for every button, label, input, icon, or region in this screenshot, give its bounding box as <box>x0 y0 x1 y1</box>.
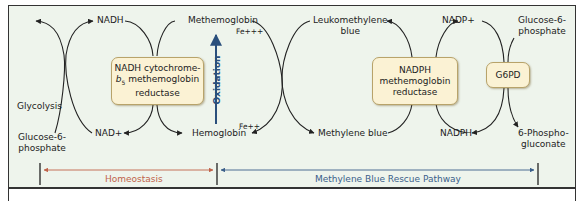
glucose-6-phosphate-left-label: Glucose-6- phosphate <box>18 132 66 154</box>
g6pd-to-nadph <box>472 88 504 133</box>
leuko-to-mb-curve <box>282 21 314 133</box>
enzyme-line1: NADPH <box>399 65 431 76</box>
nadh-into-enzyme <box>125 21 153 56</box>
nadph-label: NADPH <box>440 128 472 139</box>
nadp-plus-label: NADP+ <box>442 15 475 26</box>
pathway-curves <box>0 0 583 201</box>
glycolysis-label: Glycolysis <box>17 101 62 112</box>
enzyme-to-nadp <box>436 21 458 57</box>
methb-into-enzyme <box>157 21 175 56</box>
cytochrome-b5-reductase-box: NADH cytochrome- b5 methemoglobin reduct… <box>111 57 204 105</box>
enzyme-line2-rest: methemoglobin <box>125 74 199 84</box>
enzyme-line2: methemoglobin <box>380 76 451 87</box>
enzyme-line3: reductase <box>135 88 180 99</box>
enzyme-line2: b5 methemoglobin <box>116 74 199 88</box>
nad-plus-label: NAD+ <box>95 128 122 139</box>
nadph-reductase-box: NADPH methemoglobin reductase <box>372 57 458 105</box>
enzyme-to-hb <box>157 105 182 133</box>
nadp-into-g6pd <box>482 21 504 62</box>
enzyme-to-nad <box>124 105 153 133</box>
g6pd-label: G6PD <box>495 70 520 81</box>
leukomethylene-blue-label: Leukomethylene blue <box>313 15 388 37</box>
enzyme-line3: reductase <box>393 87 438 98</box>
enzyme-line1: NADH cytochrome- <box>115 63 201 74</box>
oxidation-label: Oxidation <box>212 55 222 105</box>
g6p-into-g6pd <box>508 38 514 62</box>
methylene-blue-label: Methylene blue <box>318 128 387 139</box>
g6pd-to-6pg <box>508 88 518 127</box>
methemoglobin-label: Methemoglobin <box>188 15 258 26</box>
6-phosphogluconate-label: 6-Phospho- gluconate <box>518 128 569 150</box>
nadh-label: NADH <box>97 15 124 26</box>
fe3-label: Fe+++ <box>236 27 263 36</box>
homeostasis-label: Homeostasis <box>105 174 163 185</box>
g6pd-box: G6PD <box>486 62 530 88</box>
enzyme-to-leuko <box>387 21 412 57</box>
nad-to-nadh-curve <box>66 21 93 133</box>
methb-to-hb-curve <box>252 21 282 133</box>
glycolysis-curve <box>36 21 65 133</box>
mb-into-enzyme <box>388 104 412 133</box>
glucose-6-phosphate-right-label: Glucose-6- phosphate <box>518 15 566 37</box>
hemoglobin-label: Hemoglobin <box>192 128 246 139</box>
rescue-pathway-label: Methylene Blue Rescue Pathway <box>315 174 461 185</box>
